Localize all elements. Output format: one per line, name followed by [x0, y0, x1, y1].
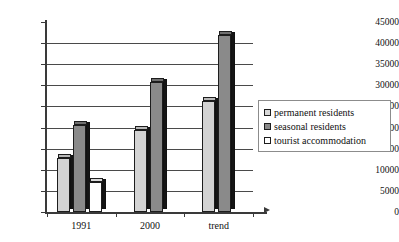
- y-tick-mark: [41, 106, 46, 107]
- bar-side-face: [231, 32, 235, 209]
- bar: [150, 82, 163, 212]
- y-tick-mark: [41, 149, 46, 150]
- legend-swatch-icon: [264, 109, 271, 116]
- legend-item-tourist-accommodation: tourist accommodation: [264, 133, 386, 147]
- y-tick-label: 45000: [355, 17, 399, 27]
- bar-front-face: [73, 125, 86, 212]
- bar-front-face: [57, 158, 70, 212]
- x-tick-mark: [253, 212, 254, 217]
- bar: [134, 130, 147, 212]
- y-tick-mark: [41, 191, 46, 192]
- y-tick-mark: [41, 128, 46, 129]
- x-axis-arrow-icon: [264, 207, 270, 213]
- x-tick-label: 1991: [71, 220, 91, 231]
- bar: [218, 35, 231, 212]
- bar-front-face: [202, 101, 215, 212]
- y-tick-label: 5000: [355, 186, 399, 196]
- plot-area: [47, 22, 253, 212]
- bar: [89, 182, 102, 212]
- legend-item-label: permanent residents: [274, 107, 354, 118]
- bar-front-face: [218, 35, 231, 212]
- y-tick-label: 10000: [355, 165, 399, 175]
- x-tick-mark: [184, 212, 185, 217]
- bar-side-face: [102, 179, 106, 209]
- y-tick-mark: [41, 85, 46, 86]
- y-tick-mark: [41, 64, 46, 65]
- bar: [73, 125, 86, 212]
- y-axis-line: [45, 20, 47, 214]
- y-tick-label: 35000: [355, 59, 399, 69]
- x-tick-mark: [47, 212, 48, 217]
- bar-chart: 0500010000150002000025000300003500040000…: [0, 0, 399, 242]
- bar: [57, 158, 70, 212]
- chart-legend: permanent residents seasonal residents t…: [258, 100, 391, 152]
- bar-front-face: [89, 182, 102, 212]
- bar: [202, 101, 215, 212]
- y-tick-mark: [41, 43, 46, 44]
- legend-item-seasonal-residents: seasonal residents: [264, 119, 386, 133]
- legend-item-label: seasonal residents: [274, 121, 346, 132]
- y-tick-mark: [41, 22, 46, 23]
- legend-item-label: tourist accommodation: [274, 135, 366, 146]
- x-tick-label: 2000: [140, 220, 160, 231]
- legend-swatch-icon: [264, 123, 271, 130]
- legend-item-permanent-residents: permanent residents: [264, 105, 386, 119]
- x-tick-label: trend: [208, 220, 229, 231]
- x-axis-line: [45, 212, 267, 214]
- y-tick-label: 0: [355, 207, 399, 217]
- bar-front-face: [150, 82, 163, 212]
- x-tick-mark: [116, 212, 117, 217]
- y-tick-mark: [41, 170, 46, 171]
- y-tick-label: 40000: [355, 38, 399, 48]
- y-tick-mark: [41, 212, 46, 213]
- bar-front-face: [134, 130, 147, 212]
- y-tick-label: 30000: [355, 80, 399, 90]
- legend-swatch-icon: [264, 137, 271, 144]
- bar-side-face: [163, 79, 167, 209]
